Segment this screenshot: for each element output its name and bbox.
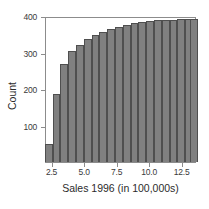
bar	[45, 144, 53, 162]
bar	[84, 39, 92, 162]
x-tick-label: 5.0	[78, 168, 89, 177]
bar	[131, 23, 139, 162]
x-tick-label: 2.5	[46, 168, 57, 177]
y-tick-label: 200	[23, 86, 37, 95]
x-tick-label: 12.5	[174, 168, 190, 177]
bars-layer	[46, 18, 195, 162]
bar	[60, 64, 68, 162]
bar	[190, 19, 198, 162]
x-axis-title: Sales 1996 (in 100,000s)	[45, 182, 196, 194]
histogram-figure: Count 100200300400 2.55.07.510.012.5 Sal…	[0, 0, 209, 209]
bar	[68, 51, 76, 162]
y-axis-title: Count	[6, 66, 18, 126]
bar	[138, 22, 146, 162]
plot-area	[45, 17, 196, 163]
y-tick-label: 400	[23, 13, 37, 22]
x-tick-label: 7.5	[111, 168, 122, 177]
x-tick-label: 10.0	[141, 168, 157, 177]
bar	[154, 20, 162, 162]
bar	[146, 21, 154, 162]
bar	[92, 35, 100, 162]
bar	[107, 29, 115, 162]
y-tick-label: 100	[23, 122, 37, 131]
bar	[123, 25, 131, 162]
bar	[53, 94, 61, 162]
bar	[115, 27, 123, 162]
bar	[76, 45, 84, 162]
bar	[99, 32, 107, 162]
bar	[177, 19, 185, 162]
x-axis: 2.55.07.510.012.5 Sales 1996 (in 100,000…	[45, 163, 196, 209]
bar	[170, 20, 178, 162]
bar	[162, 20, 170, 162]
y-tick-label: 300	[23, 49, 37, 58]
y-axis: Count 100200300400	[0, 0, 45, 209]
